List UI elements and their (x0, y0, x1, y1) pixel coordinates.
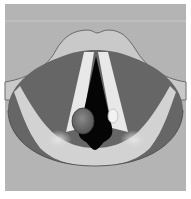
larynx-illustration (0, 0, 191, 199)
arytenoid-glow-right (120, 130, 148, 150)
small-cyst (108, 109, 118, 123)
arytenoid-glow-left (44, 130, 72, 150)
vocal-fold-lesion (72, 108, 94, 134)
larynx-diagram (0, 0, 191, 199)
